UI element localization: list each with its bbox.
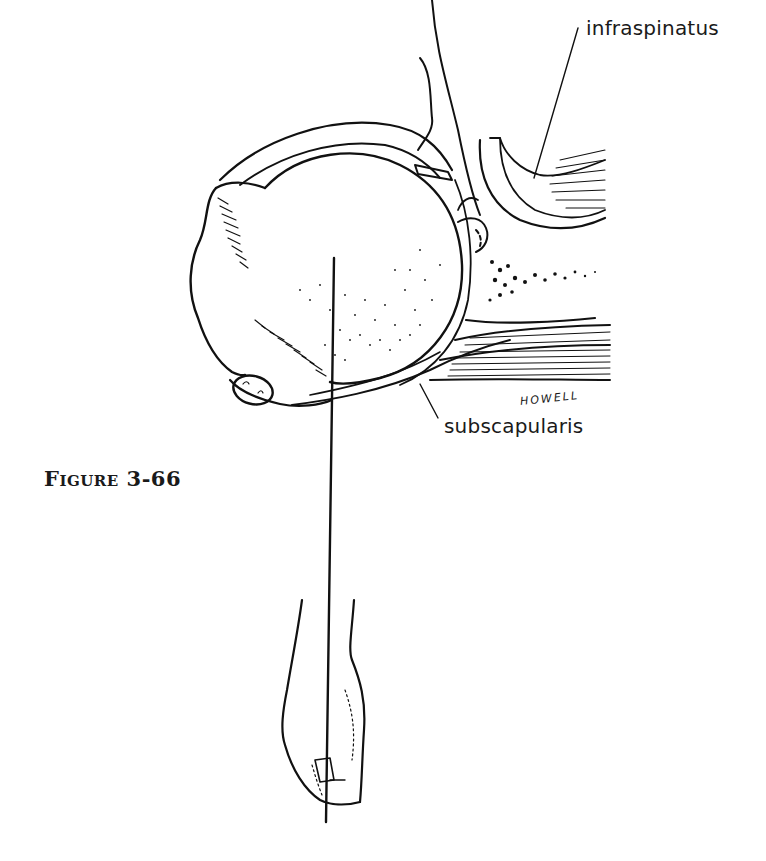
- hand-forearm: [282, 600, 364, 804]
- infraspinatus-label: infraspinatus: [586, 16, 719, 40]
- subscapularis-leader-line: [420, 384, 438, 418]
- stipple-dots: [299, 249, 441, 361]
- tuberosity-hatching: [218, 198, 326, 376]
- humerus-outline: [191, 183, 332, 406]
- infraspinatus-leader-line: [534, 28, 578, 178]
- figure-caption: Figure 3-66: [44, 466, 181, 491]
- subscapularis-label: subscapularis: [444, 414, 583, 438]
- bicipital-oval: [230, 371, 276, 408]
- scapula-dense-stipple: [488, 260, 596, 302]
- vertical-axis-line: [326, 258, 334, 822]
- shoulder-anatomy-illustration: [0, 0, 766, 861]
- lower-capsule-band: [292, 340, 510, 405]
